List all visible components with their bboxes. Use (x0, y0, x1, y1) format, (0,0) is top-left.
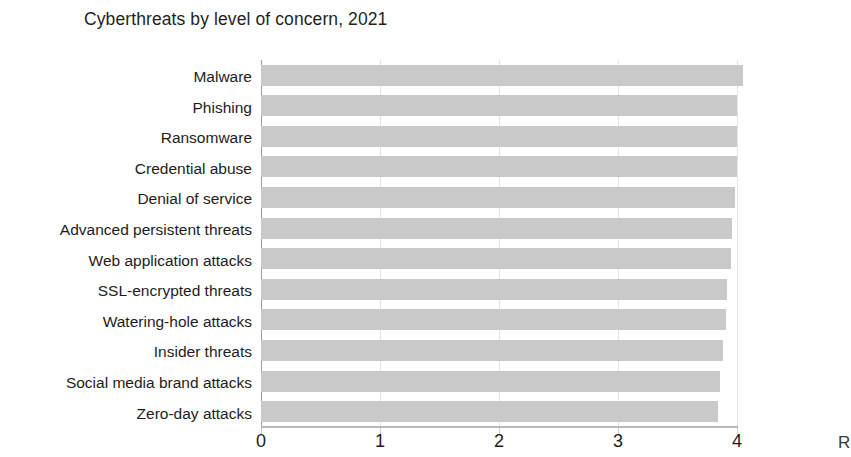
y-axis-label: Watering-hole attacks (0, 314, 252, 330)
bar-row (261, 91, 737, 122)
bar-social-media-brand-attacks (261, 371, 720, 392)
bar-row (261, 121, 737, 152)
bar-ransomware (261, 126, 737, 147)
bar-advanced-persistent-threats (261, 218, 732, 239)
bar-row (261, 397, 737, 428)
plot-area (261, 60, 737, 427)
y-axis-label: Insider threats (0, 344, 252, 360)
bar-credential-abuse (261, 156, 737, 177)
bar-row (261, 305, 737, 336)
bar-watering-hole-attacks (261, 309, 726, 330)
x-axis-label: 2 (479, 432, 519, 450)
x-axis-label: 3 (598, 432, 638, 450)
bar-phishing (261, 95, 737, 116)
x-axis-label: 1 (360, 432, 400, 450)
y-axis-label: Zero-day attacks (0, 406, 252, 422)
y-axis-label: SSL-encrypted threats (0, 283, 252, 299)
page-title: Cyberthreats by level of concern, 2021 (84, 9, 387, 30)
y-axis-label: Credential abuse (0, 161, 252, 177)
bar-malware (261, 65, 743, 86)
bar-row (261, 213, 737, 244)
y-axis-label: Ransomware (0, 130, 252, 146)
bar-row (261, 335, 737, 366)
y-axis-label: Advanced persistent threats (0, 222, 252, 238)
bar-ssl-encrypted-threats (261, 279, 727, 300)
y-axis-label: Denial of service (0, 191, 252, 207)
x-axis-label: 0 (241, 432, 281, 450)
y-axis-label: Web application attacks (0, 253, 252, 269)
bar-row (261, 60, 737, 91)
bar-denial-of-service (261, 187, 735, 208)
bar-row (261, 152, 737, 183)
bar-row (261, 244, 737, 275)
y-axis-label: Malware (0, 69, 252, 85)
bar-row (261, 366, 737, 397)
y-axis-label: Phishing (0, 100, 252, 116)
chart-figure: Cyberthreats by level of concern, 2021 R… (0, 0, 851, 457)
y-axis-label: Social media brand attacks (0, 375, 252, 391)
bar-row (261, 182, 737, 213)
gridline-x-4 (737, 60, 738, 433)
caption-fragment: R (838, 433, 851, 457)
bar-row (261, 274, 737, 305)
x-axis-label: 4 (717, 432, 757, 450)
bar-insider-threats (261, 340, 723, 361)
bar-zero-day-attacks (261, 401, 718, 422)
bar-web-application-attacks (261, 248, 731, 269)
